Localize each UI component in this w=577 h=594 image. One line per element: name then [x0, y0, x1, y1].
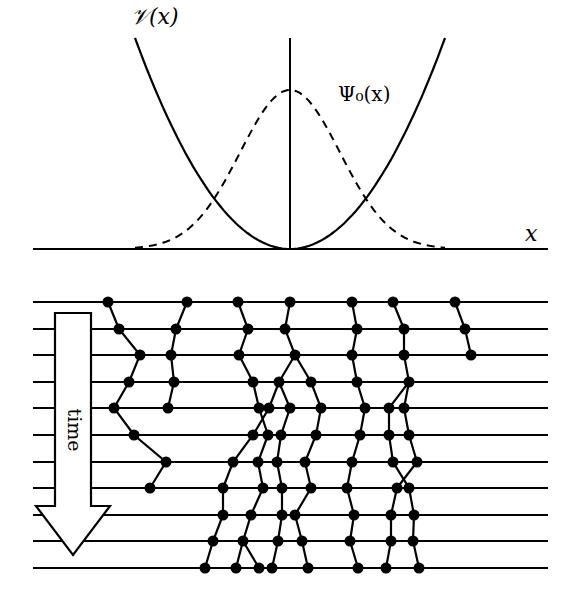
path-node [218, 483, 229, 494]
path-node [243, 324, 254, 335]
path-node [290, 350, 301, 361]
path-node [345, 536, 356, 547]
path-node [300, 457, 311, 468]
path-node [109, 403, 120, 414]
path-node [306, 483, 317, 494]
path-node [404, 430, 415, 441]
path-node [274, 377, 285, 388]
path-node [399, 324, 410, 335]
path-node [311, 430, 322, 441]
path-node [277, 510, 288, 521]
path-node [399, 403, 410, 414]
path-node [254, 403, 265, 414]
path-node [388, 457, 399, 468]
path-node [303, 563, 314, 574]
path-node [360, 403, 371, 414]
potential-label: 𝒱(x) [131, 4, 179, 29]
path-node [129, 430, 140, 441]
path-node [263, 430, 274, 441]
path-node [352, 324, 363, 335]
x-axis-label: x [525, 221, 538, 246]
path-node [135, 350, 146, 361]
path-node [404, 377, 415, 388]
path-node [347, 457, 358, 468]
path-node [234, 350, 245, 361]
path-node [228, 457, 239, 468]
path-node [353, 563, 364, 574]
path-node [466, 350, 477, 361]
path-node [412, 457, 423, 468]
path-node [264, 403, 275, 414]
path-node [414, 563, 425, 574]
path-node [316, 403, 327, 414]
path-node [254, 563, 265, 574]
path-node [248, 430, 259, 441]
path-node [450, 297, 461, 308]
path-node [161, 457, 172, 468]
path-node [182, 297, 193, 308]
path-node [103, 297, 114, 308]
path-node [246, 510, 257, 521]
path-node [248, 377, 259, 388]
path-integral-diagram: 𝒱(x) Ψ₀(x) x time [0, 0, 577, 594]
path-node [218, 510, 229, 521]
path-node [276, 430, 287, 441]
path-node [386, 510, 397, 521]
path-node [347, 297, 358, 308]
path-node [384, 403, 395, 414]
path-node [238, 536, 249, 547]
potential-wavefunction-plot: 𝒱(x) Ψ₀(x) x [33, 4, 548, 249]
path-node [114, 324, 125, 335]
path-node [342, 483, 353, 494]
path-node [208, 536, 219, 547]
path-node [290, 510, 301, 521]
path-node [460, 324, 471, 335]
path-node [171, 324, 182, 335]
path-node [349, 510, 360, 521]
path-node [285, 297, 296, 308]
path-node [409, 510, 420, 521]
path-node [166, 350, 177, 361]
path-node [169, 377, 180, 388]
path-node [272, 457, 283, 468]
path-node [273, 536, 284, 547]
path-node [355, 430, 366, 441]
path-node [347, 350, 358, 361]
path-node [231, 563, 242, 574]
path-node [408, 536, 419, 547]
path-node [145, 483, 156, 494]
wavefunction-label: Ψ₀(x) [338, 82, 390, 106]
path-node [306, 377, 317, 388]
path-node [399, 350, 410, 361]
path-node [352, 377, 363, 388]
path-node [392, 483, 403, 494]
time-slice-paths: time [33, 297, 548, 574]
path-node [277, 483, 288, 494]
path-node [404, 483, 415, 494]
path-node [267, 563, 278, 574]
path-node [297, 536, 308, 547]
path-node [200, 563, 211, 574]
path-node [258, 483, 269, 494]
path-node [124, 377, 135, 388]
path-node [386, 536, 397, 547]
path-node [163, 403, 174, 414]
time-label: time [64, 409, 86, 452]
path-node [253, 457, 264, 468]
path-node [388, 297, 399, 308]
path-node [233, 297, 244, 308]
path-node [384, 430, 395, 441]
path-node [381, 563, 392, 574]
path-node [285, 403, 296, 414]
path-node [280, 324, 291, 335]
